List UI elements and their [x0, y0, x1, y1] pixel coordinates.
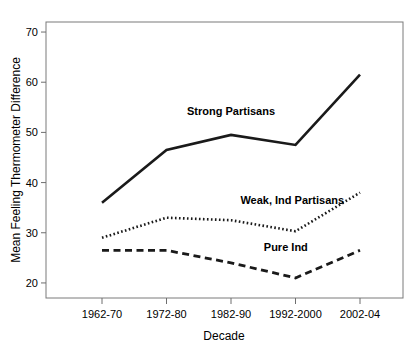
y-tick-label: 20 [26, 277, 38, 289]
y-tick-label: 60 [26, 76, 38, 88]
chart-figure: 203040506070 1962-701972-801982-901992-2… [0, 0, 419, 351]
plot-frame [46, 22, 403, 298]
series-line [102, 250, 360, 278]
x-tick-label: 1992-2000 [269, 308, 322, 320]
x-tick-label: 1982-90 [211, 308, 251, 320]
x-axis-title: Decade [203, 329, 245, 343]
x-axis-ticks [102, 298, 360, 304]
y-tick-label: 40 [26, 177, 38, 189]
series-annotation: Pure Ind [264, 241, 308, 253]
x-tick-label: 2002-04 [340, 308, 380, 320]
x-tick-label: 1962-70 [82, 308, 122, 320]
y-tick-label: 30 [26, 227, 38, 239]
series-line [102, 75, 360, 203]
y-axis-tick-labels: 203040506070 [26, 26, 38, 289]
series-annotation: Strong Partisans [187, 105, 275, 117]
y-tick-label: 70 [26, 26, 38, 38]
x-axis-tick-labels: 1962-701972-801982-901992-20002002-04 [82, 308, 380, 320]
series-annotation: Weak, Ind Partisans [240, 194, 344, 206]
y-tick-label: 50 [26, 126, 38, 138]
line-chart: 203040506070 1962-701972-801982-901992-2… [0, 0, 419, 351]
series-annotations: Strong PartisansWeak, Ind PartisansPure … [187, 105, 344, 253]
y-axis-ticks [41, 32, 46, 283]
y-axis-title: Mean Feeling Thermometer Difference [9, 57, 23, 263]
x-tick-label: 1972-80 [146, 308, 186, 320]
